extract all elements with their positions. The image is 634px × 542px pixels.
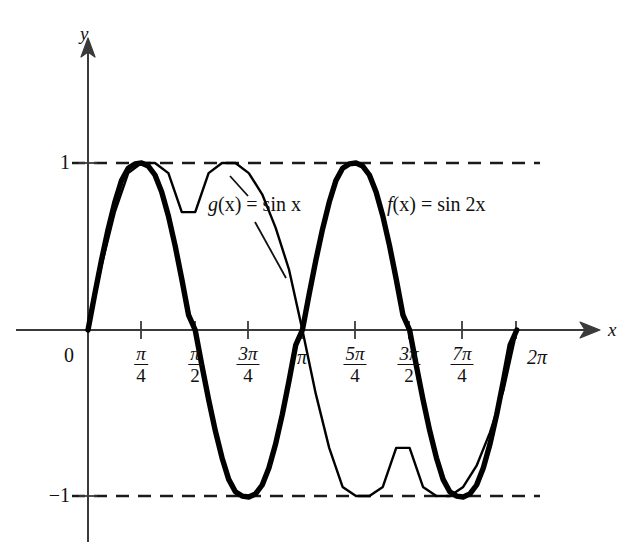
x-tick-3pi-over-4-numerator: 3π xyxy=(236,344,259,365)
y-tick-label-minus-one: −1 xyxy=(38,485,70,505)
x-tick-pi-over-4-numerator: π xyxy=(134,344,148,365)
x-axis-label: x xyxy=(608,320,616,339)
plot-canvas xyxy=(0,0,634,542)
x-tick-label-pi-over-4: π 4 xyxy=(134,344,148,386)
annotation-g-body: (x) = sin x xyxy=(218,193,301,215)
x-tick-pi-over-2-denominator: 2 xyxy=(188,365,202,385)
x-tick-pi-over-4-denominator: 4 xyxy=(134,365,148,385)
x-tick-label-3pi-over-4: 3π 4 xyxy=(236,344,259,386)
x-tick-3pi-over-4-denominator: 4 xyxy=(236,365,259,385)
x-tick-5pi-over-4-numerator: 5π xyxy=(343,344,366,365)
x-tick-7pi-over-4-denominator: 4 xyxy=(450,365,473,385)
y-tick-label-one: 1 xyxy=(46,152,70,172)
x-tick-label-pi-over-2: π 2 xyxy=(188,344,202,386)
annotation-g-prefix: g xyxy=(208,193,218,215)
x-tick-label-pi: π xyxy=(297,347,307,367)
x-tick-label-7pi-over-4: 7π 4 xyxy=(450,344,473,386)
x-tick-label-5pi-over-4: 5π 4 xyxy=(343,344,366,386)
y-axis-label: y xyxy=(80,24,88,43)
annotation-g-sin-x: g(x) = sin x xyxy=(208,194,301,214)
x-tick-label-3pi-over-2: 3π 2 xyxy=(397,344,420,386)
x-tick-pi-over-2-numerator: π xyxy=(188,344,202,365)
x-tick-5pi-over-4-denominator: 4 xyxy=(343,365,366,385)
annotation-f-sin-2x: f(x) = sin 2x xyxy=(387,194,486,214)
sine-comparison-figure: y x 1 −1 0 π 4 π 2 3π 4 π 5π 4 3π 2 xyxy=(0,0,634,542)
x-tick-3pi-over-2-denominator: 2 xyxy=(397,365,420,385)
annotation-f-body: (x) = sin 2x xyxy=(393,193,486,215)
x-tick-7pi-over-4-numerator: 7π xyxy=(450,344,473,365)
x-tick-label-2pi: 2π xyxy=(527,347,547,367)
leader-line-g xyxy=(255,222,286,278)
x-tick-3pi-over-2-numerator: 3π xyxy=(397,344,420,365)
x-tick-label-origin: 0 xyxy=(64,345,74,365)
